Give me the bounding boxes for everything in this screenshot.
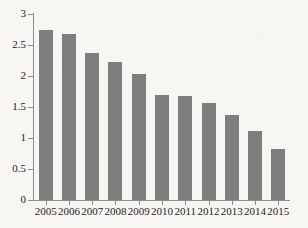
bar — [202, 103, 216, 200]
y-tick-label: 2.5 — [0, 37, 26, 52]
y-tick-label: 1 — [0, 130, 26, 145]
bar — [39, 30, 53, 200]
bar-series — [34, 14, 290, 200]
x-axis-labels: 2005200620072008200920102011201220132014… — [0, 203, 308, 223]
bar — [108, 62, 122, 200]
bar — [85, 53, 99, 200]
bar — [155, 95, 169, 200]
bar-chart: 00.511.522.53 20052006200720082009201020… — [0, 0, 308, 228]
bar — [248, 131, 262, 200]
bar — [62, 34, 76, 200]
bar — [132, 74, 146, 200]
x-tick-label: 2015 — [261, 203, 295, 219]
y-tick-mark — [28, 200, 34, 201]
y-tick-label: 2 — [0, 68, 26, 83]
bar — [178, 96, 192, 200]
y-tick-label: 1.5 — [0, 99, 26, 114]
bar — [271, 149, 285, 200]
y-tick-label: 3 — [0, 6, 26, 21]
bar — [225, 115, 239, 200]
y-tick-label: 0.5 — [0, 161, 26, 176]
